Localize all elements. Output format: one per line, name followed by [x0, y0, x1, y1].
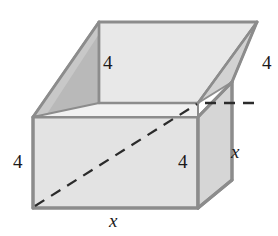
label-right-height: 4 [262, 53, 272, 72]
front-face [33, 117, 198, 208]
label-front-height: 4 [178, 152, 188, 171]
box-diagram-svg [0, 0, 278, 236]
label-depth-x: x [231, 142, 239, 161]
label-width-x: x [109, 211, 117, 230]
label-left-height: 4 [13, 152, 23, 171]
box-figure: 4 4 4 4 x x [0, 0, 278, 236]
label-back-height: 4 [103, 53, 113, 72]
